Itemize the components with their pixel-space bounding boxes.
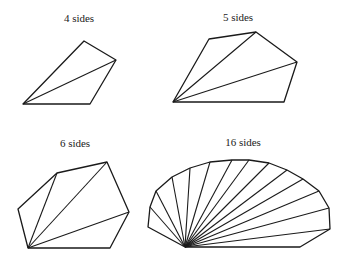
label-4-sides: 4 sides <box>64 12 94 24</box>
polygon-6-sides <box>18 162 129 248</box>
polygon-4-sides <box>23 41 116 104</box>
label-6-sides: 6 sides <box>60 137 90 149</box>
label-16-sides: 16 sides <box>225 136 261 148</box>
polygon-outline <box>18 162 129 248</box>
diagonal <box>185 168 190 247</box>
label-5-sides: 5 sides <box>223 11 253 23</box>
diagonal <box>185 179 303 247</box>
diagonal <box>28 212 129 248</box>
polygon-outline <box>173 32 297 102</box>
diagonal <box>173 62 297 102</box>
diagonal <box>185 170 287 247</box>
polygon-16-sides <box>148 160 330 247</box>
diagonal <box>28 162 107 248</box>
polygon-outline <box>23 41 116 104</box>
diagonal <box>172 177 185 247</box>
polygon-triangulation-diagram <box>0 0 346 262</box>
diagonal <box>173 32 256 102</box>
diagonal <box>23 60 116 104</box>
polygon-5-sides <box>173 32 297 102</box>
diagonal <box>28 173 57 248</box>
diagonal <box>185 208 329 247</box>
